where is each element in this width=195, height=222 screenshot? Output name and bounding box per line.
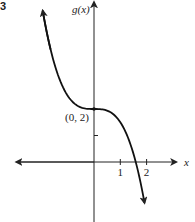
chart: 12 (0, 2) g(x) x — [0, 0, 195, 222]
y-axis-label: g(x) — [72, 3, 90, 16]
x-tick-label: 2 — [144, 166, 150, 178]
data-point-0-2 — [92, 107, 96, 111]
x-axis-label: x — [183, 156, 189, 168]
x-tick-label: 1 — [118, 166, 124, 178]
annotation-point-label: (0, 2) — [65, 111, 89, 124]
series-line-start-arrow — [43, 11, 51, 50]
